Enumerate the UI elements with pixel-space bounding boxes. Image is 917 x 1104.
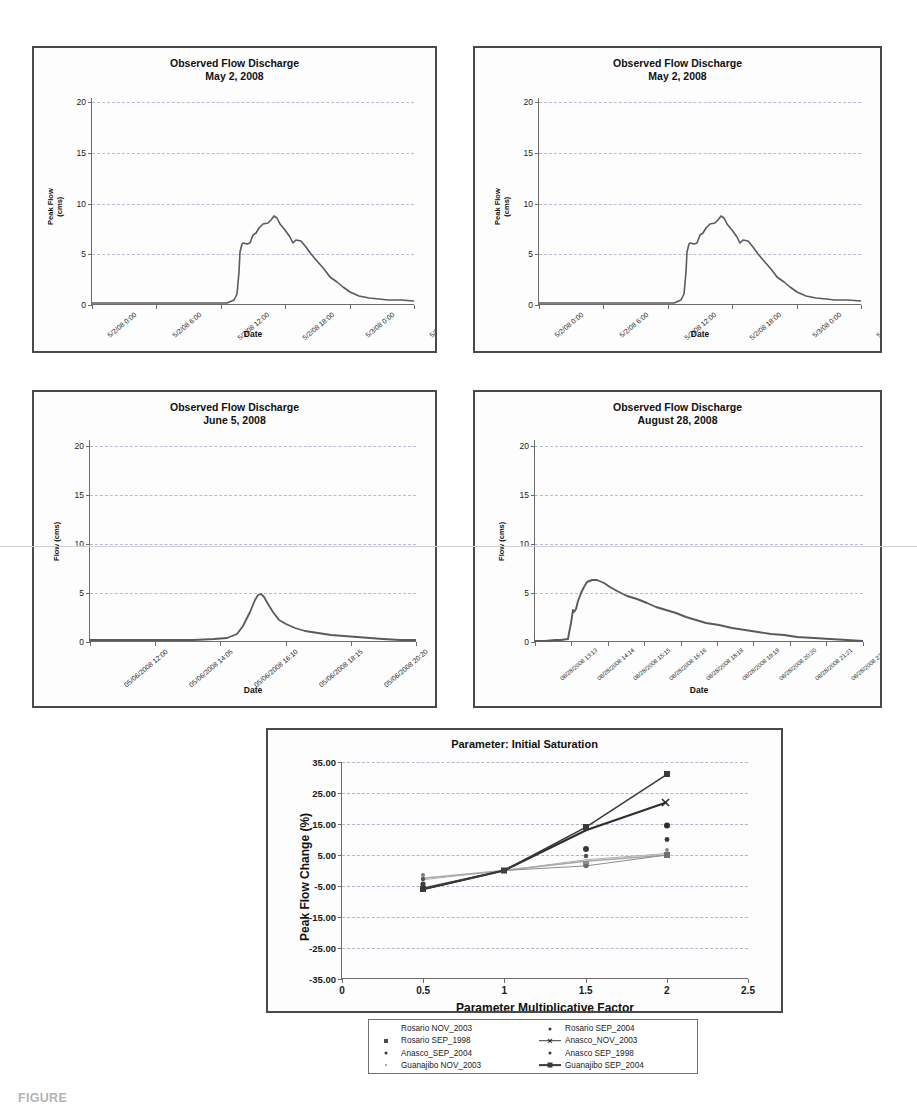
y-axis-label: Peak Flow (cms) (47, 177, 64, 237)
x-tick-0: 08/28/2008 13:13 (559, 647, 599, 682)
legend-label: Anasco_NOV_2003 (565, 1036, 637, 1045)
legend-item[interactable]: Anasco SEP_1998 (539, 1048, 693, 1059)
series-line (535, 446, 863, 642)
plot-area: 35.00 25.00 15.00 5.00 -5.00 -15.00 -25.… (342, 762, 748, 979)
legend-label: Rosario SEP_2004 (565, 1024, 635, 1033)
legend-item[interactable]: Rosario NOV_2003 (375, 1023, 529, 1034)
series-line (92, 102, 414, 305)
figure-page: Observed Flow Discharge May 2, 2008 Peak… (0, 0, 917, 1104)
legend-marker-dot-small-icon (375, 1060, 397, 1070)
chart-title-line1: Observed Flow Discharge (170, 401, 299, 413)
series-rosario-nov-2003 (423, 855, 667, 888)
x-tick-5: 08/28/2008 19:19 (741, 647, 781, 682)
x-tick-0: 05/06/2008 12:00 (122, 648, 168, 688)
x-tick-1: 08/28/2008 14:14 (595, 647, 635, 682)
legend-label: Anasco SEP_1998 (565, 1049, 634, 1058)
legend-item[interactable]: Guanajibo NOV_2003 (375, 1060, 529, 1071)
legend-column-right: Rosario SEP_2004 × Anasco_NOV_2003 Anasc… (533, 1020, 697, 1073)
chart-title-line2: May 2, 2008 (475, 70, 880, 83)
y-axis-label: Flow (cms) (498, 506, 507, 576)
legend-label: Guanajibo SEP_2004 (565, 1061, 644, 1070)
x-axis-label: Date (92, 329, 414, 339)
chart-legend: Rosario NOV_2003 Rosario SEP_1998 Anasco… (368, 1019, 698, 1074)
x-tick-2: 05/06/2008 16:10 (253, 648, 299, 688)
x-tick-0.5: 0.5 (416, 985, 430, 996)
x-tick-3: 05/06/2008 18:15 (318, 648, 364, 688)
legend-marker-none-icon (375, 1024, 397, 1034)
plot-area: 0 5 10 15 20 08/28/2008 13:13 08/28/2008… (535, 446, 863, 642)
chart-title: Observed Flow Discharge August 28, 2008 (475, 401, 880, 427)
legend-item[interactable]: Rosario SEP_1998 (375, 1035, 529, 1046)
x-tick-2: 2 (664, 985, 670, 996)
x-tick-0: 0 (339, 985, 345, 996)
x-tick-1.5: 1.5 (579, 985, 593, 996)
x-tick-7: 08/28/2008 21:21 (814, 647, 854, 682)
legend-item[interactable]: Guanajibo SEP_2004 (539, 1060, 693, 1071)
x-tick-1: 05/06/2008 14:05 (188, 648, 234, 688)
x-axis-label: Date (539, 329, 861, 339)
chart-title-line1: Observed Flow Discharge (170, 57, 299, 69)
chart-title-line2: August 28, 2008 (475, 414, 880, 427)
figure-caption: FIGURE (18, 1091, 67, 1104)
x-tick-2: 08/28/2008 15:15 (632, 647, 672, 682)
x-tick-5: 5/3/08 6:00 (876, 311, 882, 339)
series-group (342, 762, 748, 979)
legend-marker-line-square-icon (539, 1060, 561, 1070)
legend-marker-square-icon (375, 1036, 397, 1046)
y-axis-label: Flow (cms) (53, 506, 62, 576)
chart-title: Observed Flow Discharge June 5, 2008 (34, 401, 435, 427)
plot-area: 0 5 10 15 20 5/2/08 0:00 5/2/08 6:00 5/2… (92, 102, 414, 305)
x-tick-6: 08/28/2008 20:20 (777, 647, 817, 682)
y-axis-label: Peak Flow (cms) (494, 177, 511, 237)
x-tick-5: 5/3/08 6:00 (429, 311, 437, 339)
chart-observed-flow-may2-right: Observed Flow Discharge May 2, 2008 Peak… (473, 46, 882, 353)
x-tick-3: 08/28/2008 16:16 (668, 647, 708, 682)
legend-label: Guanajibo NOV_2003 (401, 1061, 481, 1070)
series-line (90, 446, 416, 642)
legend-item[interactable]: Rosario SEP_2004 (539, 1023, 693, 1034)
legend-marker-dot-icon (539, 1048, 561, 1058)
x-tick-4: 08/28/2008 18:18 (705, 647, 745, 682)
legend-label: Anasco_SEP_2004 (401, 1049, 472, 1058)
x-axis-label: Date (90, 685, 416, 695)
plot-area: 0 5 10 15 20 5/2/08 0:00 5/2/08 6:00 5/2… (539, 102, 861, 305)
chart-title: Observed Flow Discharge May 2, 2008 (475, 57, 880, 83)
legend-label: Rosario NOV_2003 (401, 1024, 472, 1033)
scan-artifact-line (0, 546, 917, 547)
x-tick-8: 08/28/2008 22:22 (850, 647, 882, 682)
legend-marker-line-cross-icon: × (539, 1036, 561, 1046)
chart-observed-flow-august28: Observed Flow Discharge August 28, 2008 … (473, 390, 882, 708)
x-tick-1: 1 (502, 985, 508, 996)
legend-item[interactable]: Anasco_SEP_2004 (375, 1048, 529, 1059)
legend-marker-dot-icon (375, 1048, 397, 1058)
legend-item[interactable]: × Anasco_NOV_2003 (539, 1035, 693, 1046)
x-axis-label: Parameter Multiplicative Factor (342, 1001, 748, 1013)
x-tick-2.5: 2.5 (741, 985, 755, 996)
series-guanajibo-sep-2004 (423, 855, 667, 878)
legend-column-left: Rosario NOV_2003 Rosario SEP_1998 Anasco… (369, 1020, 533, 1073)
legend-marker-dot-icon (539, 1024, 561, 1034)
chart-observed-flow-june5: Observed Flow Discharge June 5, 2008 Flo… (32, 390, 437, 708)
x-axis-label: Date (535, 685, 863, 695)
chart-parameter-initial-saturation: Parameter: Initial Saturation Peak Flow … (266, 728, 783, 1013)
chart-title: Observed Flow Discharge May 2, 2008 (34, 57, 435, 83)
chart-title-line1: Observed Flow Discharge (613, 401, 742, 413)
chart-title: Parameter: Initial Saturation (268, 738, 781, 751)
plot-area: 0 5 10 15 20 05/06/2008 12:00 05/06/2008… (90, 446, 416, 642)
chart-observed-flow-may2-left: Observed Flow Discharge May 2, 2008 Peak… (32, 46, 437, 353)
series-line (539, 102, 861, 305)
chart-title-line2: May 2, 2008 (34, 70, 435, 83)
legend-label: Rosario SEP_1998 (401, 1036, 471, 1045)
chart-title-line1: Observed Flow Discharge (613, 57, 742, 69)
series-rosario-sep-1998 (423, 774, 667, 889)
x-tick-4: 05/06/2008 20:20 (383, 648, 429, 688)
chart-title-line2: June 5, 2008 (34, 414, 435, 427)
